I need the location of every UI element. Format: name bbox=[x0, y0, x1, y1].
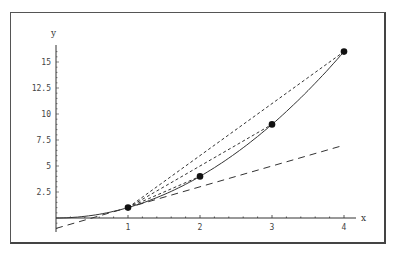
y-tick-label: 2.5 bbox=[37, 188, 52, 197]
y-tick-label: 10 bbox=[41, 110, 51, 119]
series-line bbox=[56, 52, 344, 218]
y-tick-label: 5 bbox=[46, 162, 51, 171]
data-point bbox=[197, 173, 204, 180]
x-tick-label: 3 bbox=[270, 223, 275, 232]
x-tick-label: 1 bbox=[126, 223, 131, 232]
plot-area: 12342.557.51012.515 x y bbox=[0, 0, 397, 255]
y-tick-label: 15 bbox=[41, 58, 51, 67]
x-tick-label: 4 bbox=[342, 223, 347, 232]
y-tick-label: 12.5 bbox=[32, 84, 51, 93]
data-point bbox=[269, 121, 276, 128]
series-line bbox=[128, 52, 344, 208]
plot-lines bbox=[56, 52, 344, 229]
x-axis-label: x bbox=[361, 213, 366, 223]
x-tick-label: 2 bbox=[198, 223, 203, 232]
axes: 12342.557.51012.515 bbox=[32, 45, 356, 232]
data-point bbox=[341, 48, 348, 55]
y-axis-label: y bbox=[50, 28, 57, 38]
data-point bbox=[125, 204, 132, 211]
y-tick-label: 7.5 bbox=[37, 136, 52, 145]
series-line bbox=[128, 124, 272, 207]
